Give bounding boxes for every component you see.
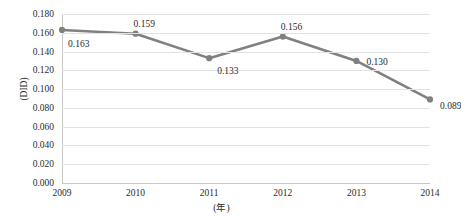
data-point-label: 0.159	[134, 19, 155, 29]
gridline	[62, 52, 430, 53]
x-axis-tick-label: 2011	[179, 187, 239, 199]
y-axis-tick-label: 0.020	[8, 159, 54, 169]
data-point-label: 0.156	[281, 22, 302, 32]
x-axis-tick-label: 2009	[32, 187, 92, 199]
x-axis-tick-label: 2010	[106, 187, 166, 199]
gridline	[62, 33, 430, 34]
data-series-line	[62, 14, 430, 183]
x-axis-tick-labels: 200920102011201220132014	[62, 187, 430, 201]
y-axis-tick-label: 0.120	[8, 65, 54, 75]
data-point-label: 0.163	[68, 39, 89, 49]
y-axis-tick-label: 0.140	[8, 47, 54, 57]
x-axis-title: (年)	[0, 200, 443, 214]
data-point-marker[interactable]	[353, 58, 359, 64]
y-axis-tick-label: 0.160	[8, 28, 54, 38]
gridline	[62, 70, 430, 71]
y-axis-tick-label: 0.180	[8, 9, 54, 19]
gridline	[62, 145, 430, 146]
y-axis-tick-label: 0.060	[8, 122, 54, 132]
data-point-label: 0.133	[217, 66, 238, 76]
gridline	[62, 164, 430, 165]
y-axis-tick-label: 0.080	[8, 103, 54, 113]
gridline	[62, 108, 430, 109]
data-point-label: 0.130	[366, 57, 387, 67]
data-point-marker[interactable]	[280, 33, 286, 39]
gridline	[62, 14, 430, 15]
data-point-marker[interactable]	[427, 96, 433, 102]
plot-area: 0.1630.1590.1330.1560.1300.089	[62, 14, 430, 183]
data-point-label: 0.089	[440, 101, 461, 111]
y-axis-tick-labels: 0.1800.1600.1400.1200.1000.0800.0600.040…	[8, 0, 54, 218]
y-axis-tick-label: 0.100	[8, 84, 54, 94]
x-axis-tick-label: 2013	[326, 187, 386, 199]
gridline	[62, 89, 430, 90]
gridline	[62, 127, 430, 128]
x-axis-tick-label: 2012	[253, 187, 313, 199]
y-axis-tick-label: 0.040	[8, 140, 54, 150]
data-point-marker[interactable]	[206, 55, 212, 61]
x-axis-line	[62, 183, 430, 184]
x-axis-tick-label: 2014	[400, 187, 460, 199]
